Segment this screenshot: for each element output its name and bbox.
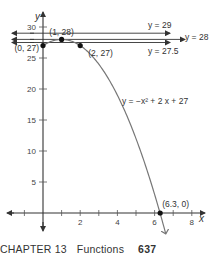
section-label: Functions [77, 243, 124, 255]
line-label-y27-5: y = 27.5 [148, 46, 179, 56]
data-point [158, 210, 163, 215]
page-footer: CHAPTER 13Functions637 [0, 243, 156, 255]
y-tick-label: 25 [27, 54, 36, 63]
parabola-curve [43, 39, 166, 233]
y-tick-label: 20 [27, 85, 36, 94]
chapter-label: CHAPTER 13 [0, 243, 67, 255]
x-tick-label: 8 [190, 218, 195, 227]
function-graph: xy246851015202530y = 29y = 28y = 27.5y =… [0, 0, 213, 240]
y-tick-label: 30 [27, 23, 36, 32]
y-tick-label: 5 [32, 178, 37, 187]
line-label-y28: y = 28 [185, 32, 209, 42]
data-point [59, 37, 64, 42]
x-tick-label: 2 [78, 218, 83, 227]
point-label: (0, 27) [14, 43, 39, 53]
x-tick-label: 4 [115, 218, 120, 227]
y-tick-label: 15 [27, 116, 36, 125]
page-number: 637 [138, 243, 156, 255]
y-axis-label: y [34, 11, 41, 22]
data-point [78, 43, 83, 48]
point-label: (2, 27) [88, 48, 113, 58]
data-point [40, 43, 45, 48]
x-tick-label: 6 [152, 218, 157, 227]
point-label: (6.3, 0) [162, 199, 189, 209]
line-label-y29: y = 29 [148, 20, 172, 30]
x-axis-label: x [198, 213, 205, 224]
point-label: (1, 28) [49, 27, 74, 37]
y-tick-label: 10 [27, 147, 36, 156]
curve-equation-label: y = −x² + 2 x + 27 [122, 96, 188, 106]
